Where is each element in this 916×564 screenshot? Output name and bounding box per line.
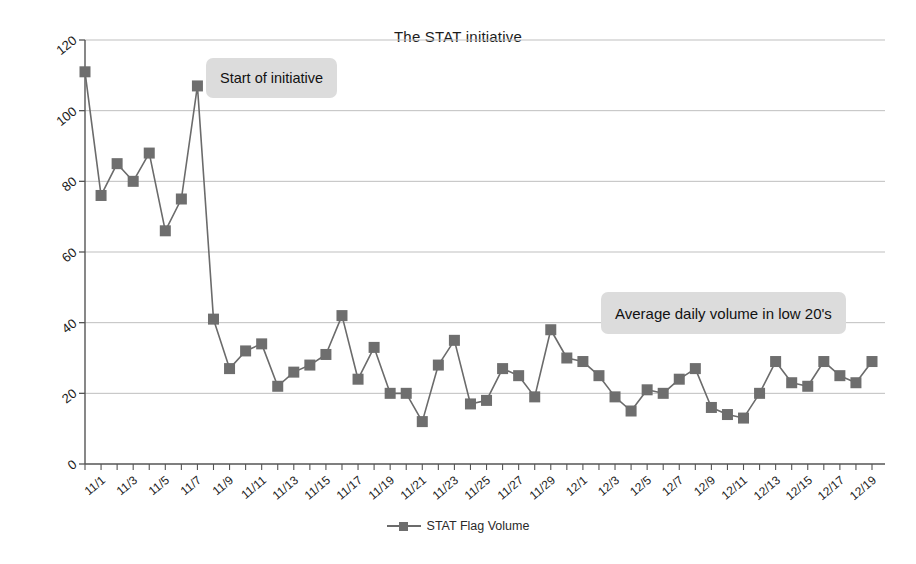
annotation-average-daily-volume: Average daily volume in low 20's (601, 292, 846, 334)
legend-swatch-icon (387, 520, 421, 532)
y-tick-marks (79, 40, 85, 464)
plot-area (85, 40, 885, 464)
annotation-start-of-initiative: Start of initiative (206, 58, 337, 98)
chart-container: The STAT initiative 020406080100120 11/1… (0, 0, 916, 564)
series-line (85, 72, 872, 422)
x-tick-marks (85, 464, 872, 470)
legend-label: STAT Flag Volume (427, 519, 530, 533)
chart-legend: STAT Flag Volume (0, 519, 916, 533)
gridlines (85, 40, 885, 393)
